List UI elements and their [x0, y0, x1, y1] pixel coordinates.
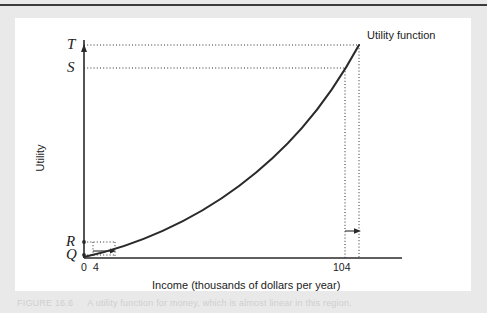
x-tick-label-104: 104 — [333, 261, 351, 273]
utility-function-chart — [15, 18, 471, 291]
y-tick-label-T: T — [67, 36, 75, 53]
utility-function-label: Utility function — [367, 29, 435, 41]
x-tick-label-0: 0 — [81, 261, 87, 273]
x-axis-title: Income (thousands of dollars per year) — [152, 279, 340, 291]
figure-panel: T S R Q 0 4 104 Utility function Income … — [15, 18, 471, 291]
figure-root: T S R Q 0 4 104 Utility function Income … — [0, 0, 487, 313]
figure-caption: FIGURE 16.6 A utility function for money… — [17, 298, 477, 313]
marker-dot-R — [82, 240, 86, 244]
x-tick-label-4: 4 — [93, 261, 99, 273]
high-income-arrow — [345, 228, 361, 234]
top-horizontal-rule — [0, 4, 487, 6]
y-axis-title: Utility — [34, 128, 46, 188]
y-tick-label-S: S — [67, 59, 75, 76]
y-tick-label-Q: Q — [66, 246, 77, 263]
utility-curve — [84, 45, 359, 257]
